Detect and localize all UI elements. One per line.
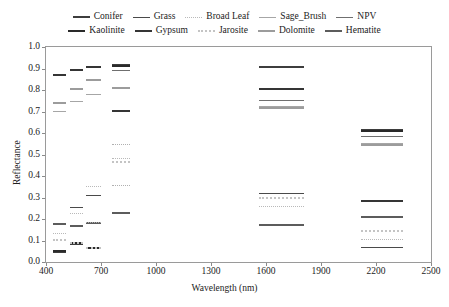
legend-item-dolomite[interactable]: Dolomite <box>258 26 315 36</box>
y-axis-tick-mark <box>42 176 45 177</box>
y-axis-tick-mark <box>42 241 45 242</box>
legend-label: Jarosite <box>219 26 248 36</box>
series-segment <box>259 193 305 194</box>
x-axis-tick-label: 1600 <box>246 267 286 277</box>
y-axis-tick-mark <box>42 219 45 220</box>
legend-item-jarosite[interactable]: Jarosite <box>198 26 248 36</box>
legend-item-grass[interactable]: Grass <box>133 12 176 22</box>
series-segment <box>361 200 403 202</box>
legend-swatch-icon <box>259 17 276 18</box>
x-axis-tick-label: 2500 <box>411 267 449 277</box>
series-segment <box>112 87 130 89</box>
y-axis-tick-mark <box>42 112 45 113</box>
legend-label: Dolomite <box>279 26 315 36</box>
legend-row: ConiferGrassBroad LeafSage_BrushNPV <box>0 10 449 24</box>
legend-item-kaolinite[interactable]: Kaolinite <box>68 26 124 36</box>
series-segment <box>53 223 66 225</box>
x-axis-tick-mark <box>211 263 212 266</box>
legend-item-broad-leaf[interactable]: Broad Leaf <box>185 12 249 22</box>
legend-item-conifer[interactable]: Conifer <box>73 12 123 22</box>
series-segment <box>53 102 66 104</box>
y-axis-tick-label: 0.8 <box>14 85 40 95</box>
series-segment <box>70 242 83 244</box>
y-axis-tick-label: 0.0 <box>14 257 40 267</box>
legend-item-sage-brush[interactable]: Sage_Brush <box>259 12 326 22</box>
series-segment <box>259 107 305 109</box>
legend-swatch-icon <box>258 30 275 32</box>
legend-label: Conifer <box>94 12 123 22</box>
series-segment <box>361 144 403 146</box>
series-segment <box>361 247 403 248</box>
y-axis-tick-label: 0.9 <box>14 64 40 74</box>
series-segment <box>70 101 83 102</box>
y-axis-tick-label: 0.2 <box>14 214 40 224</box>
series-segment <box>259 66 305 68</box>
legend-label: Broad Leaf <box>206 12 249 22</box>
legend-item-hematite[interactable]: Hematite <box>325 26 381 36</box>
y-axis-tick-label: 1.0 <box>14 42 40 52</box>
series-segment <box>86 186 101 187</box>
legend-label: Hematite <box>346 26 381 36</box>
legend-swatch-icon <box>185 17 202 18</box>
x-axis-label: Wavelength (nm) <box>0 283 449 293</box>
series-segment <box>259 88 305 90</box>
series-segment <box>70 225 83 227</box>
series-segment <box>86 66 101 68</box>
y-axis-tick-mark <box>42 133 45 134</box>
x-axis-tick-mark <box>266 263 267 266</box>
series-segment <box>70 213 83 214</box>
y-axis-tick-label: 0.1 <box>14 236 40 246</box>
legend-label: Gypsum <box>156 26 188 36</box>
series-segment <box>361 136 403 137</box>
x-axis-tick-label: 2200 <box>356 267 396 277</box>
legend-label: Sage_Brush <box>280 12 326 22</box>
chart-figure: ConiferGrassBroad LeafSage_BrushNPVKaoli… <box>0 0 449 307</box>
legend-label: Grass <box>154 12 176 22</box>
y-axis-tick-label: 0.7 <box>14 107 40 117</box>
y-axis-tick-label: 0.3 <box>14 193 40 203</box>
series-segment <box>112 70 130 71</box>
x-axis-tick-label: 700 <box>81 267 121 277</box>
legend-label: NPV <box>357 12 376 22</box>
series-segment <box>70 207 83 208</box>
series-segment <box>70 88 83 90</box>
y-axis-tick-label: 0.6 <box>14 128 40 138</box>
x-axis-tick-label: 400 <box>26 267 66 277</box>
legend-swatch-icon <box>198 30 215 32</box>
x-axis-tick-mark <box>431 263 432 266</box>
series-segment <box>259 224 305 226</box>
legend-item-gypsum[interactable]: Gypsum <box>135 26 188 36</box>
series-segment <box>86 222 101 223</box>
y-axis-tick-mark <box>42 198 45 199</box>
series-segment <box>53 233 66 234</box>
x-axis-tick-mark <box>101 263 102 266</box>
y-axis-tick-mark <box>42 262 45 263</box>
plot-canvas <box>46 47 431 262</box>
x-axis-tick-mark <box>156 263 157 266</box>
x-axis-tick-mark <box>376 263 377 266</box>
chart-legend: ConiferGrassBroad LeafSage_BrushNPVKaoli… <box>0 10 449 38</box>
y-axis-tick-mark <box>42 69 45 70</box>
legend-swatch-icon <box>73 16 90 18</box>
legend-item-npv[interactable]: NPV <box>336 12 376 22</box>
series-segment <box>112 144 130 145</box>
series-segment <box>112 185 130 186</box>
plot-area <box>45 46 432 263</box>
legend-swatch-icon <box>135 30 152 32</box>
legend-swatch-icon <box>336 17 353 18</box>
series-segment <box>361 239 403 240</box>
y-axis-tick-mark <box>42 155 45 156</box>
series-segment <box>86 195 101 196</box>
series-segment <box>53 111 66 112</box>
legend-swatch-icon <box>68 30 85 32</box>
x-axis-tick-label: 1000 <box>136 267 176 277</box>
series-segment <box>259 206 305 207</box>
x-axis-tick-mark <box>321 263 322 266</box>
x-axis-tick-label: 1900 <box>301 267 341 277</box>
x-axis-tick-mark <box>46 263 47 266</box>
series-segment <box>361 216 403 218</box>
series-segment <box>112 110 130 112</box>
series-segment <box>112 161 130 163</box>
legend-label: Kaolinite <box>89 26 124 36</box>
y-axis-label: Reflectance <box>12 140 22 185</box>
